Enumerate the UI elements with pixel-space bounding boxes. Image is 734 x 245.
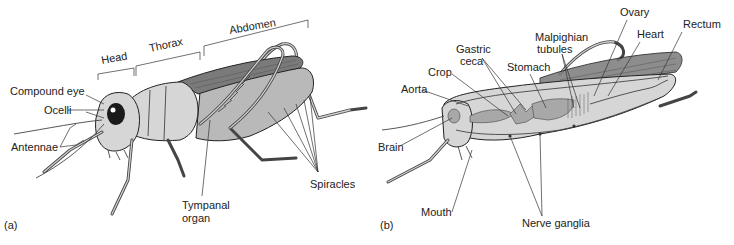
panel-a-external-anatomy: Head Thorax Abdomen Compound eye Ocelli … (4, 16, 366, 231)
label-crop: Crop (428, 66, 452, 78)
label-gastric-1: Gastric (456, 43, 491, 55)
antenna (382, 116, 444, 130)
grasshopper-anatomy-figure: Head Thorax Abdomen Compound eye Ocelli … (0, 0, 734, 245)
panel-a-tag: (a) (4, 219, 17, 231)
label-malpighian-1: Malpighian (535, 31, 588, 43)
panel-b-tag: (b) (380, 219, 393, 231)
label-stomach: Stomach (507, 61, 550, 73)
compound-eye (107, 103, 125, 125)
region-label-thorax: Thorax (148, 35, 184, 54)
label-tympanal-organ-1: Tympanal (182, 199, 230, 211)
label-antennae: Antennae (11, 141, 58, 153)
label-ocelli: Ocelli (44, 104, 72, 116)
label-brain: Brain (378, 141, 404, 153)
label-gastric-2: ceca (460, 55, 484, 67)
label-malpighian-2: tubules (537, 43, 573, 55)
brain (448, 109, 460, 123)
label-nerve-ganglia: Nerve ganglia (522, 217, 591, 229)
grasshopper-body (96, 56, 314, 160)
label-heart: Heart (637, 28, 664, 40)
region-label-abdomen: Abdomen (228, 16, 276, 36)
region-label-head: Head (100, 50, 128, 66)
label-mouth: Mouth (421, 206, 452, 218)
label-aorta: Aorta (401, 83, 428, 95)
label-ovary: Ovary (620, 6, 650, 18)
label-spiracles: Spiracles (310, 178, 356, 190)
label-rectum: Rectum (683, 18, 721, 30)
label-tympanal-organ-2: organ (182, 212, 210, 224)
panel-b-internal-anatomy: Ovary Rectum Heart Malpighian tubules Ga… (378, 6, 721, 231)
label-compound-eye: Compound eye (10, 85, 85, 97)
